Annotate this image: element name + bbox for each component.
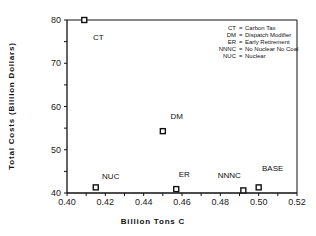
legend-text: Dispatch Modifier: [245, 32, 291, 38]
point-label-nuc: NUC: [102, 172, 120, 181]
y-tick-label: 60: [51, 102, 61, 112]
data-point-dm: [160, 129, 165, 134]
y-ticks: 4050607080: [51, 15, 67, 198]
scatter-chart: 4050607080 0.400.420.440.460.480.500.52 …: [0, 0, 316, 236]
legend-abbr: NUC: [223, 53, 237, 59]
legend: CT=Carbon TaxDM=Dispatch ModifierER=Earl…: [219, 25, 299, 59]
x-tick-label: 0.40: [58, 197, 76, 207]
legend-eq: =: [239, 53, 243, 59]
point-label-ct: CT: [93, 33, 104, 42]
x-tick-label: 0.48: [212, 197, 230, 207]
legend-abbr: CT: [228, 25, 236, 31]
legend-text: No Nuclear No Coal: [245, 46, 298, 52]
y-tick-label: 80: [51, 15, 61, 25]
legend-eq: =: [239, 25, 243, 31]
legend-eq: =: [239, 39, 243, 45]
data-point-er: [174, 187, 179, 192]
x-axis-label: Billion Tons C: [121, 217, 185, 226]
point-label-nnnc: NNNC: [218, 171, 241, 180]
point-label-base: BASE: [262, 164, 283, 173]
x-tick-label: 0.50: [250, 197, 268, 207]
y-tick-label: 70: [51, 58, 61, 68]
legend-text: Early Retirement: [245, 39, 290, 45]
data-point-nuc: [93, 185, 98, 190]
x-tick-label: 0.44: [135, 197, 153, 207]
legend-abbr: DM: [227, 32, 236, 38]
legend-text: Carbon Tax: [245, 25, 276, 31]
legend-eq: =: [239, 32, 243, 38]
y-axis-label: Total Costs (Billion Dollars): [7, 42, 16, 170]
data-point-nnnc: [241, 188, 246, 193]
point-label-er: ER: [179, 170, 190, 179]
x-tick-label: 0.42: [97, 197, 115, 207]
x-ticks: 0.400.420.440.460.480.500.52: [58, 193, 306, 207]
point-label-dm: DM: [171, 112, 184, 121]
y-tick-label: 50: [51, 145, 61, 155]
data-point-ct: [82, 18, 87, 23]
legend-text: Nuclear: [245, 53, 266, 59]
legend-abbr: ER: [228, 39, 237, 45]
legend-abbr: NNNC: [219, 46, 237, 52]
x-tick-label: 0.46: [173, 197, 191, 207]
x-tick-label: 0.52: [288, 197, 306, 207]
legend-eq: =: [239, 46, 243, 52]
data-point-base: [256, 185, 261, 190]
